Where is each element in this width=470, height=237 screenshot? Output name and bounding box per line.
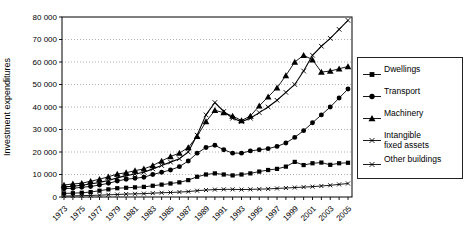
y-tick-label: 30 000 [33, 125, 58, 134]
legend-item-machinery: Machinery [362, 108, 458, 127]
other-buildings-marker-icon [362, 155, 384, 173]
legend-label: Machinery [384, 108, 423, 118]
machinery-marker-icon [362, 109, 384, 127]
x-tick-label: 2005 [334, 204, 353, 223]
x-tick-label: 1997 [263, 204, 282, 223]
x-tick-label: 1993 [228, 204, 247, 223]
y-tick-label: 60 000 [33, 58, 58, 67]
y-tick-label: 40 000 [33, 103, 58, 112]
y-axis: 010 00020 00030 00040 00050 00060 00070 … [33, 13, 62, 202]
x-tick-label: 1973 [50, 204, 69, 223]
x-tick-label: 1983 [139, 204, 158, 223]
legend-item-intangible-fixed-assets: Intangible fixed assets [362, 130, 458, 151]
x-tick-label: 1985 [157, 204, 176, 223]
series-other-buildings [62, 18, 351, 189]
x-tick-label: 1975 [68, 204, 87, 223]
x-tick-label: 1979 [104, 204, 123, 223]
x-tick-label: 1981 [121, 204, 140, 223]
y-tick-label: 20 000 [33, 148, 58, 157]
x-axis: 1973197519771979198119831985198719891991… [50, 197, 353, 223]
y-tick-label: 10 000 [33, 170, 58, 179]
x-tick-label: 1999 [281, 204, 300, 223]
x-tick-label: 1991 [210, 204, 229, 223]
legend-label: Dwellings [384, 64, 420, 74]
y-tick-label: 0 [53, 193, 58, 202]
legend-label: Other buildings [384, 154, 441, 164]
x-tick-label: 1987 [175, 204, 194, 223]
intangible-fixed-assets-marker-icon [362, 131, 384, 149]
x-tick-label: 1977 [86, 204, 105, 223]
y-tick-label: 80 000 [33, 13, 58, 22]
y-tick-label: 70 000 [33, 35, 58, 44]
legend-label: Transport [384, 86, 420, 96]
legend-item-dwellings: Dwellings [362, 64, 458, 83]
x-tick-label: 2001 [299, 204, 318, 223]
transport-marker-icon [362, 87, 384, 105]
plot-area: 010 00020 00030 00040 00050 00060 00070 … [33, 13, 354, 223]
x-tick-label: 2003 [317, 204, 336, 223]
x-tick-label: 1995 [246, 204, 265, 223]
dwellings-marker-icon [362, 65, 384, 83]
legend-item-other-buildings: Other buildings [362, 154, 458, 173]
y-axis-title: Investment expenditures [2, 57, 12, 156]
legend-label: Intangible fixed assets [384, 130, 429, 151]
y-gridlines [62, 40, 352, 175]
chart-figure: Investment expenditures 010 00020 00030 … [0, 0, 470, 237]
legend-item-transport: Transport [362, 86, 458, 105]
legend: DwellingsTransportMachineryIntangible fi… [357, 57, 463, 179]
y-tick-label: 50 000 [33, 80, 58, 89]
series-machinery [61, 52, 352, 188]
x-tick-label: 1989 [192, 204, 211, 223]
